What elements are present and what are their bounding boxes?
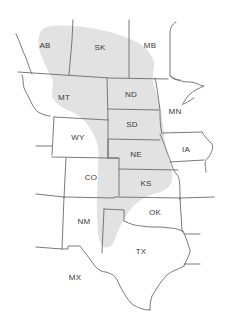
label-nd: ND xyxy=(125,90,137,99)
label-sk: SK xyxy=(94,43,105,52)
border-tx-la xyxy=(182,230,190,266)
border-co-west xyxy=(64,158,66,198)
label-mt: MT xyxy=(58,93,70,102)
border-nm-west xyxy=(62,197,64,249)
label-wy: WY xyxy=(71,133,84,142)
border-nm-mx xyxy=(36,246,150,310)
label-ne: NE xyxy=(130,150,142,159)
label-nm: NM xyxy=(78,217,91,226)
label-mn: MN xyxy=(169,107,182,116)
border-wy-west xyxy=(52,117,54,155)
label-ks: KS xyxy=(140,179,151,188)
label-co: CO xyxy=(85,173,97,182)
border-tx-coast xyxy=(150,266,184,310)
border-ia-mo xyxy=(170,160,204,162)
label-tx: TX xyxy=(136,247,147,256)
label-mb: MB xyxy=(144,41,156,50)
label-ab: AB xyxy=(39,41,50,50)
label-ok: OK xyxy=(149,208,161,217)
range-map: AB SK MB MT ND MN SD WY NE IA CO KS NM O… xyxy=(0,0,228,322)
label-mx: MX xyxy=(69,273,81,282)
border-mn-ia xyxy=(163,132,202,133)
border-id-mt xyxy=(22,75,50,116)
border-ut-az-stub xyxy=(36,194,64,197)
border-ok-east xyxy=(180,198,182,230)
border-ia-east xyxy=(202,132,213,172)
border-mo-ar xyxy=(180,197,214,198)
label-sd: SD xyxy=(126,120,138,129)
map-graphic xyxy=(0,0,228,322)
border-mn-north xyxy=(170,76,204,105)
border-ab-west xyxy=(16,34,32,74)
label-ia: IA xyxy=(182,145,190,154)
border-mb-on xyxy=(170,22,180,80)
border-ok-tx xyxy=(124,221,184,232)
